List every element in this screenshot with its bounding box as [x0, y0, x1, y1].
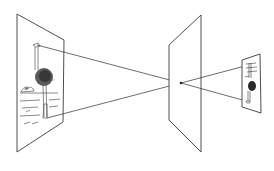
inverted-body [248, 81, 256, 91]
diagram-canvas [0, 0, 274, 171]
object-plane [17, 14, 64, 152]
pinhole-plane [169, 15, 201, 152]
pinhole-plane-frame [169, 15, 201, 152]
ray-feet-to-pinhole [47, 83, 181, 118]
pinhole-camera-diagram [0, 0, 274, 171]
pinhole-point [180, 82, 183, 85]
image-plane [242, 54, 261, 113]
